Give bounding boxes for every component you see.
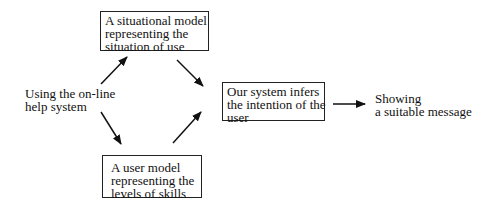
situational-model-box: A situational model representing the sit… <box>100 11 209 51</box>
situational-model-line-3: situation of use <box>105 40 204 53</box>
arrow-input-to-situational <box>101 57 127 84</box>
user-model-box: A user model representing the levels of … <box>102 155 202 198</box>
arrow-input-to-user-model <box>101 112 121 144</box>
inference-line-3: user <box>227 111 320 124</box>
input-line-2: help system <box>25 100 115 113</box>
input-label: Using the on-line help system <box>25 87 115 113</box>
output-line-2: a suitable message <box>375 105 472 118</box>
user-model-line-3: levels of skills <box>111 187 193 200</box>
arrow-user-model-to-inference <box>173 112 201 143</box>
output-label: Showing a suitable message <box>375 92 472 118</box>
arrow-situational-to-inference <box>177 60 203 86</box>
inference-box: Our system infers the intention of the u… <box>222 82 325 121</box>
